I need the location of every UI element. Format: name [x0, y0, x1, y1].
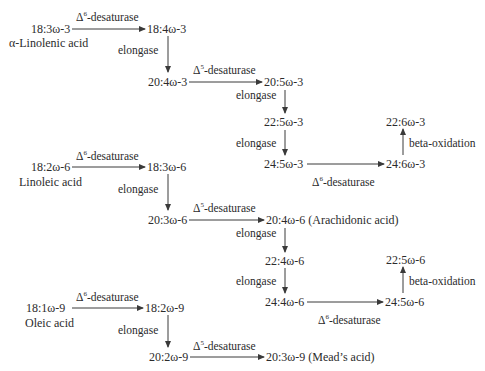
enzyme-label-l10: Δ5-desaturase	[193, 198, 256, 215]
enzyme-label-l15: Δ6-desaturase	[76, 287, 139, 304]
node-n23: 20:3ω-9 (Mead’s acid)	[266, 350, 375, 364]
node-n9: 22:6ω-3	[386, 115, 425, 129]
enzyme-label-l17: Δ5-desaturase	[193, 336, 256, 353]
enzyme-label-l2: elongase	[118, 43, 158, 57]
node-n22: 20:2ω-9	[149, 350, 188, 364]
enzyme-label-l11: elongase	[236, 226, 276, 240]
node-n21: 18:2ω-9	[145, 301, 184, 315]
node-n17: 24:5ω-6	[385, 295, 424, 309]
enzyme-label-l9: elongase	[118, 182, 158, 196]
node-n6: 22:5ω-3	[264, 115, 303, 129]
enzyme-label-l13: Δ6-desaturase	[318, 310, 381, 327]
node-n5: 20:5ω-3	[264, 75, 303, 89]
node-n7: 24:5ω-3	[264, 157, 303, 171]
node-n16: 24:4ω-6	[265, 295, 304, 309]
node-n18: 22:5ω-6	[386, 253, 425, 267]
enzyme-label-l6: Δ6-desaturase	[312, 172, 375, 189]
node-n2: α-Linolenic acid	[9, 36, 88, 50]
enzyme-label-l12: elongase	[236, 274, 276, 288]
node-n20: Oleic acid	[25, 316, 74, 330]
node-n14: 20:4ω-6 (Arachidonic acid)	[266, 213, 399, 227]
pathway-diagram: 18:3ω-3α-Linolenic acid18:4ω-320:4ω-320:…	[0, 0, 485, 371]
node-n8: 24:6ω-3	[386, 157, 425, 171]
enzyme-label-l16: elongase	[118, 323, 158, 337]
node-n1: 18:3ω-3	[31, 22, 70, 36]
node-n4: 20:4ω-3	[148, 75, 187, 89]
enzyme-label-l14: beta-oxidation	[409, 274, 475, 288]
node-n13: 20:3ω-6	[148, 213, 187, 227]
node-n19: 18:1ω-9	[26, 301, 65, 315]
enzyme-label-l8: Δ6-desaturase	[76, 146, 139, 163]
node-n10: 18:2ω-6	[31, 160, 70, 174]
enzyme-label-l4: elongase	[236, 88, 276, 102]
enzyme-label-l5: elongase	[236, 136, 276, 150]
enzyme-label-l1: Δ6-desaturase	[76, 7, 139, 24]
node-n15: 22:4ω-6	[265, 254, 304, 268]
node-n12: 18:3ω-6	[147, 160, 186, 174]
enzyme-label-l7: beta-oxidation	[409, 136, 475, 150]
enzyme-label-l3: Δ5-desaturase	[193, 60, 256, 77]
node-n11: Linoleic acid	[19, 175, 82, 189]
node-n3: 18:4ω-3	[147, 22, 186, 36]
